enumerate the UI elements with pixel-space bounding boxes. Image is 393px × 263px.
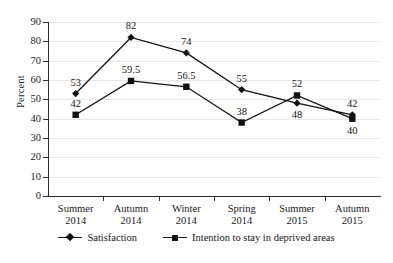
line-chart: Percent 0102030405060708090 Summer2014Au… bbox=[0, 0, 393, 263]
data-point-marker bbox=[349, 115, 355, 121]
data-point-label: 53 bbox=[70, 78, 81, 88]
legend-label: Intention to stay in deprived areas bbox=[192, 232, 335, 243]
x-axis-label: Spring2014 bbox=[214, 203, 269, 227]
y-axis-tick-label: 80 bbox=[1, 36, 41, 46]
x-axis-tick bbox=[103, 196, 104, 201]
diamond-marker-icon bbox=[58, 233, 82, 243]
data-point-marker bbox=[128, 78, 134, 84]
legend-item-2[interactable]: Intention to stay in deprived areas bbox=[163, 232, 335, 243]
data-point-label: 38 bbox=[236, 107, 247, 117]
data-point-marker bbox=[238, 119, 244, 125]
data-point-label: 48 bbox=[292, 110, 303, 120]
y-axis-tick-label: 20 bbox=[1, 152, 41, 162]
x-axis-tick bbox=[159, 196, 160, 201]
data-point-label: 40 bbox=[347, 126, 358, 136]
data-point-label: 59.5 bbox=[122, 65, 140, 75]
square-marker-icon bbox=[163, 233, 187, 243]
y-axis-tick-label: 90 bbox=[1, 17, 41, 27]
x-axis-label: Summer2014 bbox=[48, 203, 103, 227]
series-line-2 bbox=[76, 81, 353, 123]
y-axis-tick-label: 60 bbox=[1, 75, 41, 85]
data-point-marker bbox=[238, 86, 245, 93]
y-axis-tick-label: 0 bbox=[1, 191, 41, 201]
data-point-label: 52 bbox=[292, 79, 303, 89]
data-point-label: 55 bbox=[236, 74, 247, 84]
series-plot bbox=[48, 22, 380, 196]
data-point-label: 82 bbox=[126, 21, 137, 31]
data-point-marker bbox=[183, 84, 189, 90]
y-axis-tick-label: 30 bbox=[1, 133, 41, 143]
legend-item-1[interactable]: Satisfaction bbox=[58, 232, 137, 243]
x-axis-tick bbox=[325, 196, 326, 201]
x-axis-tick bbox=[269, 196, 270, 201]
y-axis-tick-label: 50 bbox=[1, 94, 41, 104]
data-point-label: 56.5 bbox=[177, 71, 195, 81]
data-point-label: 74 bbox=[181, 37, 192, 47]
y-axis-tick-label: 70 bbox=[1, 56, 41, 66]
data-point-label: 42 bbox=[70, 99, 81, 109]
x-axis-tick bbox=[214, 196, 215, 201]
legend-label: Satisfaction bbox=[87, 232, 137, 243]
data-point-marker bbox=[293, 100, 300, 107]
data-point-label: 42 bbox=[347, 99, 358, 109]
x-axis-label: Summer2015 bbox=[269, 203, 324, 227]
data-point-marker bbox=[183, 49, 190, 56]
data-point-marker bbox=[72, 112, 78, 118]
chart-legend: SatisfactionIntention to stay in deprive… bbox=[0, 232, 393, 243]
y-axis-tick-label: 40 bbox=[1, 114, 41, 124]
series-line-1 bbox=[76, 37, 353, 114]
x-axis-label: Autumn2015 bbox=[325, 203, 380, 227]
x-axis-label: Autumn2014 bbox=[103, 203, 158, 227]
x-axis-label: Winter2014 bbox=[159, 203, 214, 227]
y-axis-tick-label: 10 bbox=[1, 172, 41, 182]
data-point-marker bbox=[294, 92, 300, 98]
